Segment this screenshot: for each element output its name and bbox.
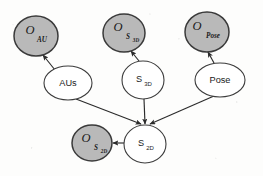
node-s3d-shape xyxy=(122,61,164,99)
edge-pose-to-s2d xyxy=(150,96,214,124)
node-s2d-subscript: 2D xyxy=(146,145,154,151)
node-o-s2d-subsubscript: 2D xyxy=(100,148,108,154)
edge-s3d-to-s2d xyxy=(144,99,145,124)
graph-canvas: O AU O S 3D O Pose AUs xyxy=(0,0,263,176)
edge-pose-to-o-pose xyxy=(208,52,214,63)
node-o-au-label: O xyxy=(25,23,34,37)
node-o-au[interactable]: O AU xyxy=(14,16,58,56)
graphical-model-figure: O AU O S 3D O Pose AUs xyxy=(0,0,263,176)
node-o-au-shape xyxy=(14,16,58,56)
node-s2d[interactable]: S 2D xyxy=(124,125,166,163)
node-o-s2d-label: O xyxy=(81,131,90,145)
node-s2d-shape xyxy=(124,125,166,163)
nodes-layer: O AU O S 3D O Pose AUs xyxy=(14,12,245,163)
node-o-s2d[interactable]: O S 2D xyxy=(72,125,112,161)
node-pose-label: Pose xyxy=(210,75,231,85)
node-o-pose-subscript: Pose xyxy=(206,32,221,40)
edge-aus-to-o-au xyxy=(43,55,55,70)
node-o-s3d[interactable]: O S 3D xyxy=(103,14,145,52)
node-o-s3d-shape xyxy=(103,14,145,52)
node-o-pose-label: O xyxy=(192,19,201,33)
edge-s3d-to-o-s3d xyxy=(131,51,139,61)
node-o-s2d-subscript: S xyxy=(94,144,98,152)
node-o-s2d-shape xyxy=(72,125,112,161)
node-aus[interactable]: AUs xyxy=(44,66,92,100)
node-s2d-label: S xyxy=(138,138,144,148)
node-o-s3d-label: O xyxy=(113,20,122,34)
node-pose[interactable]: Pose xyxy=(195,63,245,97)
node-s3d-label: S xyxy=(136,74,142,84)
node-aus-label: AUs xyxy=(59,78,77,88)
node-s3d[interactable]: S 3D xyxy=(122,61,164,99)
node-o-pose[interactable]: O Pose xyxy=(185,12,229,52)
edge-aus-to-s2d xyxy=(76,99,141,124)
node-o-au-subscript: AU xyxy=(36,36,48,44)
node-o-s3d-subsubscript: 3D xyxy=(132,37,140,43)
node-s3d-subscript: 3D xyxy=(144,81,152,87)
node-o-s3d-subscript: S xyxy=(126,33,130,41)
